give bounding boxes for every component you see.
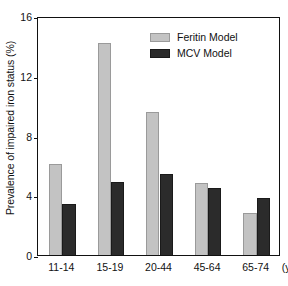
bar xyxy=(111,182,124,255)
legend-entry-label: Feritin Model xyxy=(177,32,238,43)
x-axis-tick-label: 65-74 xyxy=(242,261,269,273)
bar xyxy=(160,174,173,255)
light-gray-swatch xyxy=(150,33,170,42)
bar xyxy=(257,198,270,255)
bar xyxy=(195,183,208,255)
x-axis-tick-labels: 11-1415-1920-4445-6465-74 xyxy=(37,261,280,279)
y-axis-tick-label: 0 xyxy=(14,250,32,262)
y-axis-tick-mark xyxy=(34,138,38,139)
bar xyxy=(49,164,62,255)
legend-entry: MCV Model xyxy=(150,46,238,60)
y-axis-tick-mark xyxy=(34,78,38,79)
y-axis-tick-labels: 0481216 xyxy=(14,0,32,286)
legend-entry: Feritin Model xyxy=(150,30,238,44)
y-axis-tick-mark xyxy=(34,18,38,19)
bar-chart-figure: Prevalence of impaired iron status (%) 0… xyxy=(0,0,288,286)
y-axis-tick-label: 16 xyxy=(14,11,32,23)
chart-legend: Feritin ModelMCV Model xyxy=(150,30,238,62)
x-axis-tick-label: 15-19 xyxy=(96,261,123,273)
bar xyxy=(62,204,75,255)
bar xyxy=(208,188,221,255)
bar xyxy=(146,112,159,255)
y-axis-tick-label: 12 xyxy=(14,71,32,83)
x-axis-unit-label: (y) xyxy=(282,261,288,273)
y-axis-tick-mark xyxy=(34,197,38,198)
x-axis-tick-label: 45-64 xyxy=(194,261,221,273)
dark-swatch xyxy=(150,49,170,58)
bar xyxy=(243,213,256,255)
y-axis-tick-mark xyxy=(34,257,38,258)
plot-area: Feritin ModelMCV Model xyxy=(37,17,280,256)
bar xyxy=(98,43,111,255)
legend-entry-label: MCV Model xyxy=(177,48,232,59)
x-axis-tick-label: 20-44 xyxy=(145,261,172,273)
x-axis-tick-label: 11-14 xyxy=(48,261,74,273)
y-axis-tick-label: 8 xyxy=(14,131,32,143)
y-axis-tick-label: 4 xyxy=(14,190,32,202)
